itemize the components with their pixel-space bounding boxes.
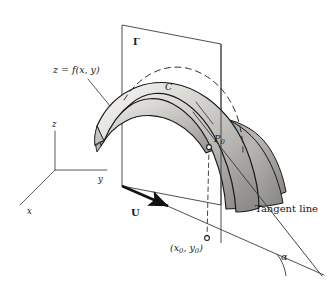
point-p0-label: P0	[214, 134, 225, 146]
x-axis	[20, 170, 55, 205]
leader-surface-label	[88, 79, 110, 106]
foot-close: )	[199, 242, 203, 253]
axis-label-x: x	[27, 207, 32, 216]
foot-open: (x	[170, 242, 179, 253]
foot-point-label: (x0, y0)	[170, 243, 203, 255]
angle-alpha-label: α	[281, 252, 287, 262]
curve-c-label: C	[165, 82, 172, 92]
p0-marker	[207, 145, 212, 150]
plane-gamma-label: Γ	[133, 37, 140, 47]
point-p0-subscript: 0	[220, 138, 224, 146]
surface-equation-label: z = f(x, y)	[53, 65, 100, 75]
axis-label-y: y	[98, 175, 103, 184]
coordinate-axes	[20, 131, 107, 205]
direction-vector-label: U	[131, 208, 140, 218]
foot-marker	[205, 236, 210, 241]
foot-mid: , y	[183, 242, 194, 253]
point-markers	[205, 145, 212, 241]
tangent-line-label: Tangent line	[255, 204, 318, 214]
axis-label-z: z	[52, 120, 56, 129]
figure-directional-derivative: z = f(x, y) Γ C P0 (x0, y0) U Tangent li…	[0, 0, 332, 306]
